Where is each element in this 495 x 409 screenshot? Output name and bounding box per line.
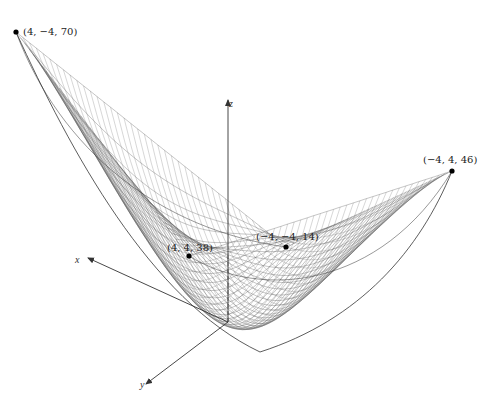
- point-marker: [449, 168, 454, 173]
- z-axis-label: z: [228, 98, 233, 109]
- point-marker: [283, 244, 288, 249]
- point-label: (4, −4, 70): [23, 26, 77, 37]
- labeled-points: (4, −4, 70) (−4, 4, 46) (−4, −4, 14) (4,…: [13, 26, 477, 259]
- y-axis-label: y: [139, 379, 145, 390]
- point-marker: [13, 29, 18, 34]
- x-axis-label: x: [74, 254, 80, 265]
- point-label: (−4, 4, 46): [423, 154, 477, 165]
- point-label: (4, 4, 38): [167, 242, 213, 253]
- surface-figure: z x y (4, −4, 70) (−4, 4, 46) (−4, −4, 1…: [0, 0, 495, 409]
- point-marker: [186, 253, 191, 258]
- point-label: (−4, −4, 14): [256, 231, 319, 242]
- y-axis: [146, 322, 228, 384]
- surface-mesh: [16, 32, 452, 330]
